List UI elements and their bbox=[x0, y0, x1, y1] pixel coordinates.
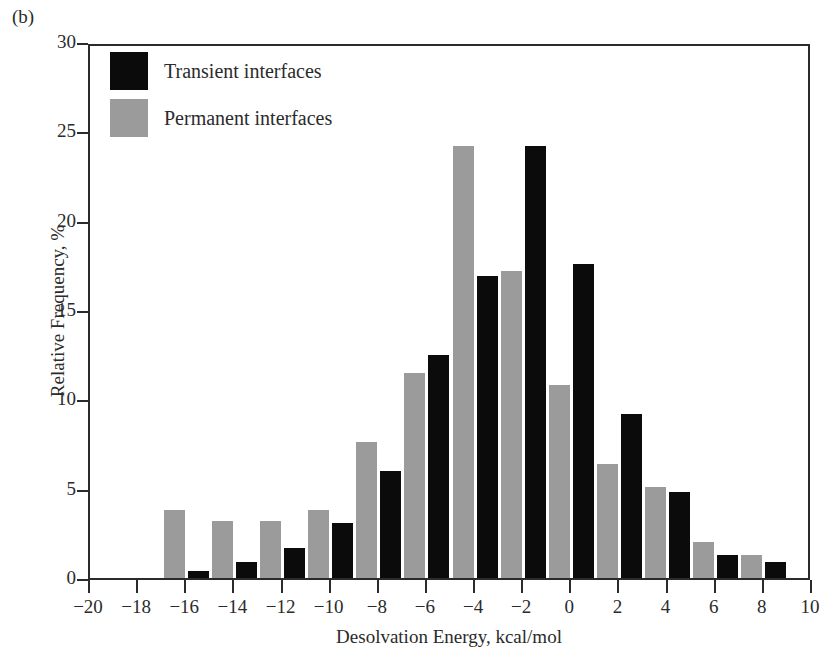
y-axis-title-wrap: Relative Frequency, % bbox=[26, 0, 27, 662]
legend-label-transient: Transient interfaces bbox=[164, 60, 322, 83]
x-axis-tick-label: 2 bbox=[590, 596, 644, 618]
bar-permanent bbox=[164, 510, 185, 578]
bar-transient bbox=[765, 562, 786, 578]
x-axis-tick bbox=[88, 580, 90, 593]
bar-transient bbox=[573, 264, 594, 578]
bar-transient bbox=[332, 523, 353, 578]
y-axis-tick bbox=[77, 400, 88, 402]
x-axis-tick bbox=[281, 580, 283, 593]
x-axis-tick bbox=[136, 580, 138, 593]
figure-panel: (b) 051015202530 Relative Frequency, % D… bbox=[0, 0, 839, 662]
legend-item-permanent: Permanent interfaces bbox=[110, 99, 332, 137]
x-axis-tick-label: −4 bbox=[446, 596, 500, 618]
legend-item-transient: Transient interfaces bbox=[110, 52, 332, 90]
y-axis-title: Relative Frequency, % bbox=[47, 111, 69, 511]
y-axis-tick bbox=[77, 579, 88, 581]
y-axis-tick bbox=[77, 43, 88, 45]
y-axis-tick bbox=[77, 490, 88, 492]
bar-permanent bbox=[693, 542, 714, 578]
legend-swatch-transient-icon bbox=[110, 52, 148, 90]
x-axis-tick bbox=[425, 580, 427, 593]
x-axis-tick bbox=[810, 580, 812, 593]
x-axis-tick bbox=[714, 580, 716, 593]
x-axis-tick-label: −14 bbox=[205, 596, 259, 618]
x-axis-tick-label: 10 bbox=[783, 596, 837, 618]
bar-transient bbox=[525, 146, 546, 578]
bar-permanent bbox=[404, 373, 425, 578]
x-axis-tick bbox=[184, 580, 186, 593]
x-axis-tick bbox=[521, 580, 523, 593]
x-axis-tick-label: 6 bbox=[687, 596, 741, 618]
bar-permanent bbox=[549, 385, 570, 578]
legend: Transient interfaces Permanent interface… bbox=[110, 52, 332, 146]
x-axis-tick-label: −18 bbox=[109, 596, 163, 618]
bar-transient bbox=[477, 276, 498, 578]
x-axis-tick bbox=[617, 580, 619, 593]
y-axis-tick bbox=[77, 132, 88, 134]
bar-permanent bbox=[356, 442, 377, 578]
bar-permanent bbox=[212, 521, 233, 578]
x-axis-tick bbox=[473, 580, 475, 593]
x-axis-title: Desolvation Energy, kcal/mol bbox=[88, 626, 810, 648]
bar-permanent bbox=[597, 464, 618, 578]
x-axis-tick bbox=[569, 580, 571, 593]
x-axis-tick-label: 0 bbox=[542, 596, 596, 618]
x-axis-tick-label: −16 bbox=[157, 596, 211, 618]
bar-permanent bbox=[308, 510, 329, 578]
legend-label-permanent: Permanent interfaces bbox=[164, 107, 332, 130]
bar-transient bbox=[236, 562, 257, 578]
x-axis-tick-label: −12 bbox=[254, 596, 308, 618]
bar-permanent bbox=[453, 146, 474, 578]
x-axis-tick-label: −2 bbox=[494, 596, 548, 618]
x-axis-tick bbox=[329, 580, 331, 593]
legend-swatch-permanent-icon bbox=[110, 99, 148, 137]
x-axis-tick bbox=[666, 580, 668, 593]
y-axis-tick bbox=[77, 222, 88, 224]
bar-permanent bbox=[501, 271, 522, 578]
bar-permanent bbox=[645, 487, 666, 578]
bar-transient bbox=[380, 471, 401, 578]
y-axis-tick bbox=[77, 311, 88, 313]
bar-transient bbox=[428, 355, 449, 578]
x-axis-tick-label: −8 bbox=[350, 596, 404, 618]
x-axis-tick-label: 8 bbox=[735, 596, 789, 618]
bar-permanent bbox=[260, 521, 281, 578]
x-axis-tick-label: −6 bbox=[398, 596, 452, 618]
x-axis-tick-label: −20 bbox=[61, 596, 115, 618]
x-axis-tick bbox=[762, 580, 764, 593]
x-axis-tick bbox=[232, 580, 234, 593]
bar-permanent bbox=[741, 555, 762, 578]
bar-transient bbox=[621, 414, 642, 578]
bar-transient bbox=[669, 492, 690, 578]
x-axis-tick-label: −10 bbox=[302, 596, 356, 618]
bar-transient bbox=[284, 548, 305, 578]
bar-transient bbox=[188, 571, 209, 578]
x-axis-tick-label: 4 bbox=[639, 596, 693, 618]
x-axis-tick bbox=[377, 580, 379, 593]
bar-transient bbox=[717, 555, 738, 578]
